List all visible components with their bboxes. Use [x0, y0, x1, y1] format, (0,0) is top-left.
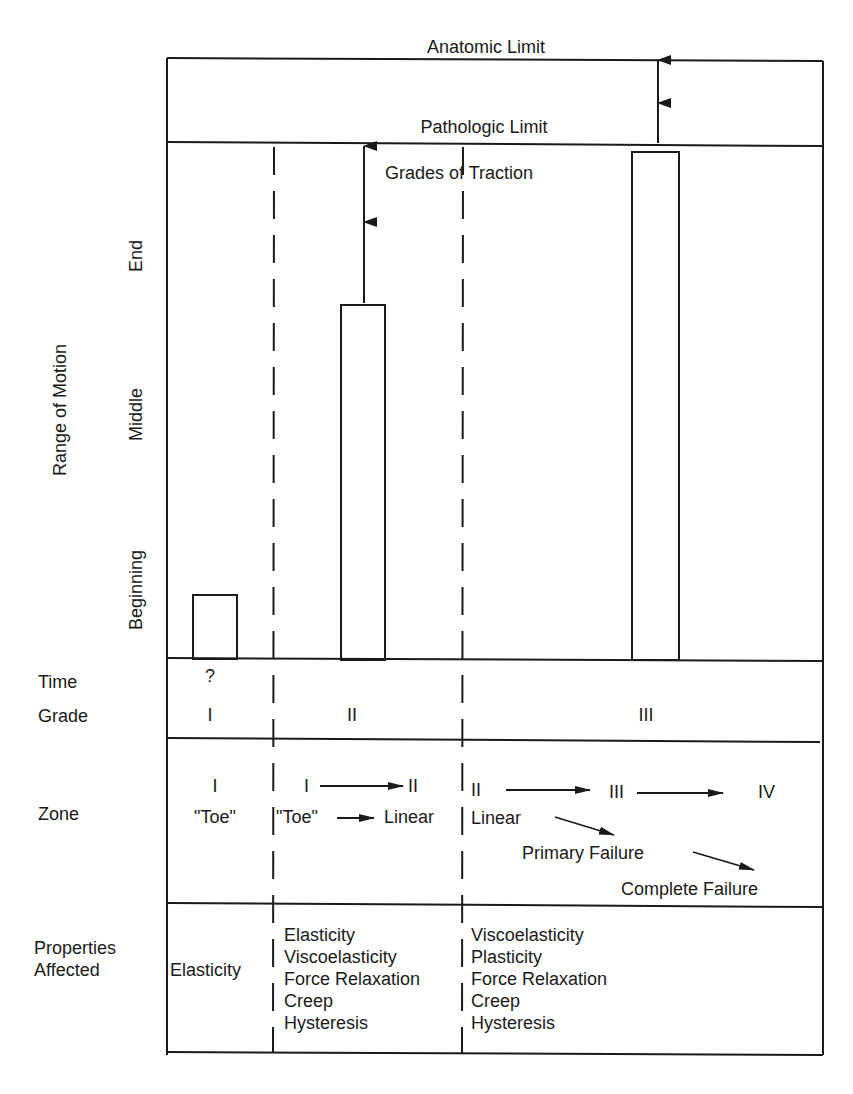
pathologic-limit-label: Pathologic Limit — [420, 117, 547, 137]
zone-col-3-complete-failure: Complete Failure — [621, 879, 758, 899]
zone-col-3-numeral-3: III — [609, 782, 624, 802]
bar-grade-2 — [341, 305, 385, 660]
y-level-beginning: Beginning — [126, 550, 146, 630]
zone-col-3-numeral-4: IV — [758, 782, 775, 802]
zone-col-2-to-name: Linear — [384, 807, 434, 827]
property-item: Force Relaxation — [284, 968, 420, 990]
property-item: Elasticity — [284, 924, 420, 946]
zone-col-2-from-name: "Toe" — [276, 807, 318, 827]
property-item: Creep — [284, 990, 420, 1012]
bar-grade-3 — [632, 152, 679, 660]
property-item: Viscoelasticity — [471, 924, 607, 946]
grade-zone-divider — [167, 738, 820, 742]
grade-col-3: III — [638, 705, 653, 725]
property-item: Creep — [471, 990, 607, 1012]
chart-title: Grades of Traction — [385, 163, 533, 183]
y-level-middle: Middle — [126, 388, 146, 441]
zone-col-2-to-numeral: II — [408, 776, 418, 796]
pathologic-limit-line — [167, 142, 823, 146]
column-divider-2 — [462, 147, 463, 1054]
bar-grade-1 — [193, 595, 237, 659]
property-item: Viscoelasticity — [284, 946, 420, 968]
grade-col-1: I — [207, 705, 212, 725]
grade-col-2: II — [347, 705, 357, 725]
zone-col-1-name: "Toe" — [194, 807, 236, 827]
zone-col-3-numeral-2: II — [471, 780, 481, 800]
row-label-time: Time — [38, 672, 77, 692]
property-item: Force Relaxation — [471, 968, 607, 990]
column-divider-1 — [273, 147, 274, 1053]
zone-col-2-from-numeral: I — [304, 776, 309, 796]
zone-col-3-primary-failure: Primary Failure — [522, 843, 644, 863]
time-col-1: ? — [205, 666, 215, 686]
zone-arrow-primary-complete — [693, 852, 754, 870]
row-label-properties: Properties — [34, 938, 116, 958]
properties-col-1: Elasticity — [170, 960, 241, 980]
zone-properties-divider — [167, 903, 823, 907]
zone-col-3-linear: Linear — [471, 808, 521, 828]
bottom-border — [167, 1052, 823, 1055]
row-label-zone: Zone — [38, 804, 79, 824]
plot-baseline — [167, 658, 823, 661]
y-level-end: End — [126, 240, 146, 272]
anatomic-limit-label: Anatomic Limit — [427, 37, 545, 57]
y-axis-label: Range of Motion — [50, 344, 70, 476]
properties-col-3: Viscoelasticity Plasticity Force Relaxat… — [471, 924, 607, 1034]
property-item: Hysteresis — [471, 1012, 607, 1034]
row-label-grade: Grade — [38, 706, 88, 726]
property-item: Hysteresis — [284, 1012, 420, 1034]
properties-col-2: Elasticity Viscoelasticity Force Relaxat… — [284, 924, 420, 1034]
property-item: Plasticity — [471, 946, 607, 968]
zone-arrow-linear-primary — [555, 817, 614, 835]
anatomic-limit-line — [167, 58, 823, 61]
zone-col-1-numeral: I — [212, 776, 217, 796]
row-label-affected: Affected — [34, 960, 100, 980]
